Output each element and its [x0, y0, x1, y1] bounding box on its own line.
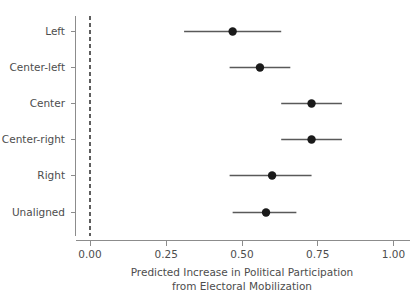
data-series-group: [184, 27, 342, 216]
point-estimate-dot: [307, 135, 315, 143]
x-axis-title: Predicted Increase in Political Particip…: [131, 266, 354, 292]
axes-group: [76, 16, 411, 241]
x-tick-label: 0.50: [230, 248, 253, 260]
x-tick-label: 0.25: [155, 248, 178, 260]
point-estimate-dot: [307, 99, 315, 107]
point-estimate-dot: [228, 27, 236, 35]
y-tick-label-unaligned: Unaligned: [12, 206, 65, 218]
x-tick-marks: [91, 241, 394, 246]
coefficient-plot: 0.00 0.25 0.50 0.75 1.00 Left Center-lef…: [0, 0, 420, 299]
point-estimate-dot: [262, 208, 270, 216]
y-tick-labels: Left Center-left Center Center-right Rig…: [2, 25, 66, 218]
y-tick-label-left: Left: [45, 25, 65, 37]
figure-container: 0.00 0.25 0.50 0.75 1.00 Left Center-lef…: [0, 0, 420, 299]
y-tick-label-center-left: Center-left: [10, 61, 65, 73]
y-tick-marks: [71, 32, 76, 213]
point-estimate-dot: [268, 171, 276, 179]
point-estimate-dot: [256, 63, 264, 71]
x-axis-title-line-2: from Electoral Mobilization: [172, 280, 312, 292]
x-axis-title-line-1: Predicted Increase in Political Particip…: [131, 266, 354, 278]
x-tick-labels: 0.00 0.25 0.50 0.75 1.00: [78, 248, 405, 260]
y-tick-label-right: Right: [37, 169, 65, 181]
y-tick-label-center: Center: [30, 97, 66, 109]
x-tick-label: 0.00: [78, 248, 101, 260]
y-tick-label-center-right: Center-right: [2, 133, 65, 145]
x-tick-label: 1.00: [382, 248, 405, 260]
x-tick-label: 0.75: [306, 248, 329, 260]
